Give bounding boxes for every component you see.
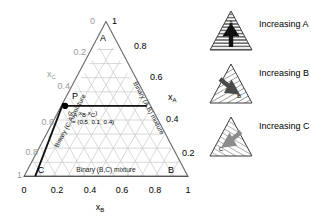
legend-item-increasing-a[interactable]: A Increasing A [210,11,309,50]
legend-label-b: Increasing B [259,68,309,78]
ternary-diagram-figure: A B C 0 1 0.8 0.6 0.4 0.2 xA 0.2 0.4 0.6… [0,0,311,222]
legend-item-increasing-c[interactable]: C Increasing C [210,117,310,156]
legend: A Increasing A B Increasing B C [0,0,311,222]
legend-label-a: Increasing A [259,19,309,29]
legend-item-increasing-b[interactable]: B Increasing B [210,64,309,103]
legend-label-c: Increasing C [259,121,310,131]
